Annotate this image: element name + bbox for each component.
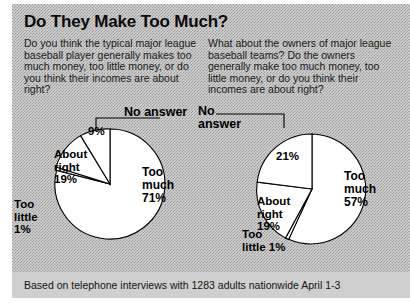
label-about-right: About right 19% (54, 148, 87, 186)
label-no-answer-value: 9% (88, 125, 105, 138)
label-no-answer-value: 21% (276, 150, 299, 163)
page-title: Do They Make Too Much? (24, 12, 228, 32)
label-too-much: Too much 71% (142, 166, 174, 206)
callout-no-answer: No answer (198, 105, 241, 131)
pie-chart-left-graphic (12, 100, 208, 260)
leader-line-no-answer (96, 118, 160, 129)
question-text-left: Do you think the typical major league ba… (24, 38, 204, 96)
footer-source-note: Based on telephone interviews with 1283 … (24, 279, 340, 291)
callout-no-answer: No answer (124, 106, 187, 119)
label-too-much: Too much 57% (344, 170, 376, 210)
question-text-right: What about the owners of major league ba… (208, 38, 398, 96)
label-too-little: Too little 1% (14, 198, 38, 236)
pie-chart-left: Too much 71% About right 19% 9% Too litt… (12, 100, 208, 260)
infographic-panel: Do They Make Too Much? Do you think the … (12, 4, 410, 298)
pie-chart-right: Too much 57% About right 19% 21% Too lit… (198, 100, 410, 260)
label-too-little: Too little 1% (242, 228, 285, 253)
